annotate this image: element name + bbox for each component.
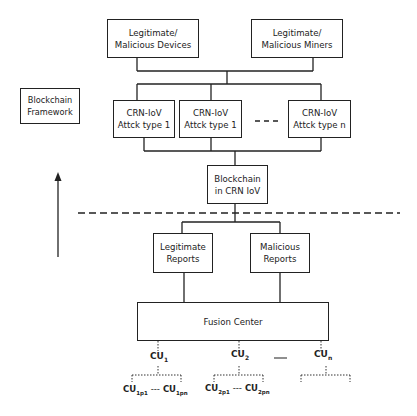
node-line1: Legitimate/ [261, 27, 332, 39]
cu-child-first-base: CU [205, 383, 218, 393]
cu-base: CU [231, 349, 245, 359]
legitimate-reports-node: Legitimate Reports [153, 233, 213, 273]
cu-base: CU [314, 349, 328, 359]
node-line1: Blockchain [214, 173, 261, 185]
node-line2: Reports [260, 253, 300, 265]
cu-child-separator: --- [233, 383, 242, 393]
legitimate-malicious-devices-node: Legitimate/ Malicious Devices [107, 19, 199, 58]
cu-child-last-sub: 1pn [176, 390, 188, 396]
node-line1: Malicious [260, 241, 300, 253]
blockchain-framework-label: Blockchain Framework [20, 88, 80, 124]
cu-sub: 2 [245, 354, 249, 361]
node-line1: CRN-IoV [293, 107, 345, 119]
cu-1-children: CU1p1 --- CU1pn [123, 384, 188, 396]
legitimate-malicious-miners-node: Legitimate/ Malicious Miners [251, 19, 343, 58]
fusion-center-label: Fusion Center [203, 316, 262, 328]
cu-child-first-sub: 1p1 [136, 390, 148, 396]
cu-1-label: CU1 [150, 351, 168, 363]
node-line2: Attck type 1 [184, 119, 236, 131]
framework-line1: Blockchain [27, 94, 72, 106]
crn-iov-attack-node-n: CRN-IoV Attck type n [288, 100, 351, 138]
node-line2: Reports [160, 253, 206, 265]
crn-iov-attack-node-1: CRN-IoV Attck type 1 [113, 100, 175, 138]
node-line1: CRN-IoV [118, 107, 170, 119]
cu-base: CU [150, 351, 164, 361]
node-line1: Legitimate/ [115, 27, 191, 39]
cu-child-first-sub: 2p1 [218, 389, 230, 395]
fusion-center-node: Fusion Center [137, 302, 329, 341]
node-line2: Attck type 1 [118, 119, 170, 131]
cu-sub: 1 [164, 356, 168, 363]
cu-child-last-base: CU [163, 384, 176, 394]
cu-child-last-sub: 2pn [258, 389, 270, 395]
cu-child-separator: --- [151, 384, 160, 394]
node-line2: Malicious Devices [115, 39, 191, 51]
cu-child-last-base: CU [245, 383, 258, 393]
malicious-reports-node: Malicious Reports [250, 233, 310, 273]
framework-line2: Framework [27, 106, 72, 118]
node-line2: in CRN IoV [214, 185, 261, 197]
cu-2-children: CU2p1 --- CU2pn [205, 383, 270, 395]
connector-lines [0, 0, 417, 416]
cu-2-label: CU2 [231, 349, 249, 361]
blockchain-in-crn-iov-node: Blockchain in CRN IoV [207, 165, 268, 204]
node-line1: Legitimate [160, 241, 206, 253]
node-line2: Attck type n [293, 119, 345, 131]
cu-child-first-base: CU [123, 384, 136, 394]
node-line2: Malicious Miners [261, 39, 332, 51]
node-line1: CRN-IoV [184, 107, 236, 119]
cu-sub: n [328, 354, 332, 361]
cu-n-label: CUn [314, 349, 332, 361]
crn-iov-attack-node-2: CRN-IoV Attck type 1 [179, 100, 242, 138]
